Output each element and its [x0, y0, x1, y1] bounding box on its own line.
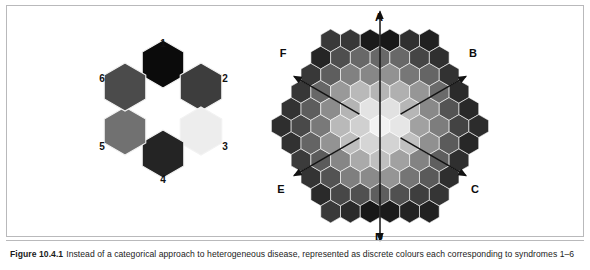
- caption-label: Figure 10.4.1: [10, 249, 63, 259]
- syndrome-hex-label-5: 5: [99, 141, 105, 152]
- syndrome-hex-label-6: 6: [99, 73, 105, 84]
- right-diagram: ABCDEF: [277, 6, 492, 246]
- syndrome-hex-label-2: 2: [222, 73, 228, 84]
- left-diagram: 123456: [97, 34, 247, 199]
- syndrome-hex-2: [180, 63, 222, 111]
- figure-page: 123456 ABCDEF Figure 10.4.1Instead of a …: [0, 0, 590, 270]
- caption-text: Instead of a categorical approach to het…: [66, 249, 574, 259]
- syndrome-hex-label-3: 3: [222, 141, 228, 152]
- syndrome-hex-label-4: 4: [160, 174, 166, 185]
- axis-label-B: B: [469, 47, 477, 59]
- syndrome-hex-5: [104, 107, 146, 155]
- axis-label-C: C: [471, 183, 479, 195]
- axis-label-E: E: [277, 183, 284, 195]
- figure-frame: 123456 ABCDEF: [6, 5, 584, 237]
- syndrome-hex-3: [180, 107, 222, 155]
- syndrome-hex-4: [142, 130, 184, 178]
- syndrome-hex-label-1: 1: [160, 38, 166, 49]
- axis-label-F: F: [280, 47, 287, 59]
- axis-label-D: D: [375, 231, 383, 243]
- caption-divider: [6, 240, 584, 241]
- figure-caption: Figure 10.4.1Instead of a categorical ap…: [10, 249, 584, 260]
- axis-label-A: A: [375, 11, 383, 23]
- syndrome-hex-6: [104, 63, 146, 111]
